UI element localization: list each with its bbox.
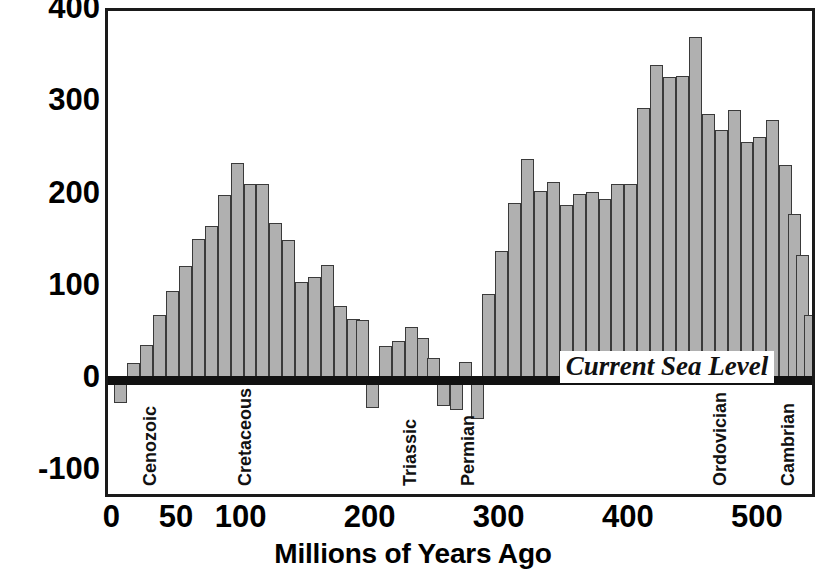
bar <box>356 320 369 380</box>
x-tick-200: 200 <box>310 500 430 534</box>
bar <box>153 315 166 380</box>
x-tick-300: 300 <box>439 500 559 534</box>
bar <box>295 282 308 380</box>
bar <box>166 291 179 380</box>
bar <box>702 114 715 380</box>
bar <box>804 315 815 380</box>
bar <box>741 142 754 380</box>
bar <box>379 346 392 380</box>
sea-level-chart-figure: Sea Level Change (meters) -1000100200300… <box>0 0 826 571</box>
bar <box>192 239 205 380</box>
bar <box>689 37 702 380</box>
bar <box>521 159 534 380</box>
y-tick--100: -100 <box>4 453 100 484</box>
bar <box>231 163 244 380</box>
x-tick-500: 500 <box>697 500 817 534</box>
bar <box>179 266 192 380</box>
bar <box>715 130 728 380</box>
period-label-ordovician: Ordovician <box>710 392 731 486</box>
bar <box>282 240 295 380</box>
period-label-permian: Permian <box>458 415 479 486</box>
bar <box>650 65 663 380</box>
y-tick-0: 0 <box>4 361 100 392</box>
bar <box>534 191 547 380</box>
bar <box>256 184 269 381</box>
bar <box>663 77 676 380</box>
bar <box>471 380 484 419</box>
bar <box>637 108 650 380</box>
bar <box>676 76 689 380</box>
bar <box>728 110 741 380</box>
bar <box>218 195 231 380</box>
y-tick-100: 100 <box>4 269 100 300</box>
bar <box>205 226 218 380</box>
x-axis-title: Millions of Years Ago <box>0 538 826 570</box>
period-label-triassic: Triassic <box>400 419 421 486</box>
period-label-cenozoic: Cenozoic <box>140 406 161 486</box>
bar <box>495 251 508 380</box>
bar <box>547 182 560 380</box>
y-tick-300: 300 <box>4 84 100 115</box>
bar <box>482 294 495 380</box>
plot-area: CenozoicCretaceousTriassicPermianOrdovic… <box>105 8 815 497</box>
period-label-cambrian: Cambrian <box>778 403 799 486</box>
bar <box>392 341 405 380</box>
bar <box>244 184 257 380</box>
bar <box>269 223 282 380</box>
bar <box>321 265 334 380</box>
period-label-cretaceous: Cretaceous <box>235 388 256 486</box>
bar <box>766 120 779 380</box>
bar <box>308 277 321 380</box>
bar <box>753 137 766 380</box>
bar <box>508 203 521 380</box>
y-axis-tick-labels: -1000100200300400 <box>0 0 100 571</box>
y-tick-200: 200 <box>4 177 100 208</box>
current-sea-level-annotation: Current Sea Level <box>560 351 775 383</box>
bar <box>334 306 347 380</box>
x-tick-100: 100 <box>181 500 301 534</box>
x-tick-400: 400 <box>568 500 688 534</box>
bar <box>140 345 153 380</box>
y-tick-400: 400 <box>4 0 100 23</box>
